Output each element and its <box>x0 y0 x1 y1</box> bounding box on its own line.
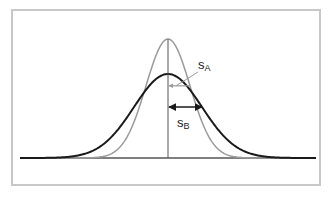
distribution-plot: sA sB <box>0 0 331 197</box>
label-s-a: sA <box>198 57 211 73</box>
label-s-b: sB <box>177 115 190 131</box>
